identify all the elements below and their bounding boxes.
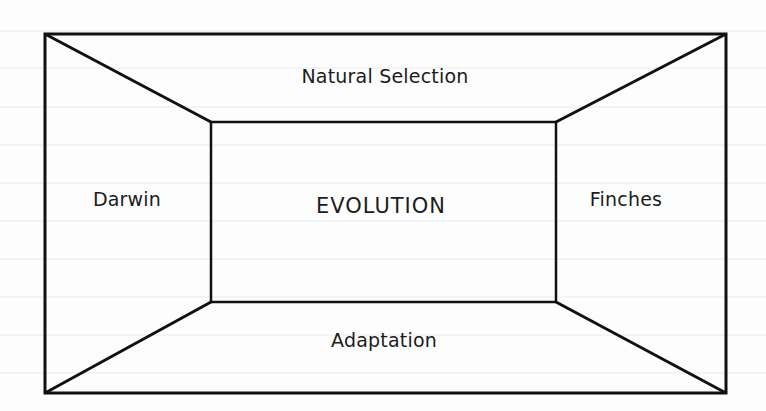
diagram-canvas: Natural Selection Darwin Finches EVOLUTI… <box>0 0 766 411</box>
connector-bottom-right <box>556 302 726 393</box>
center-concept-label: EVOLUTION <box>316 194 446 218</box>
panel-bottom-label: Adaptation <box>331 329 437 351</box>
connector-top-left <box>45 34 211 122</box>
panel-left-label: Darwin <box>93 188 161 210</box>
panel-right-label: Finches <box>590 188 662 210</box>
connector-bottom-left <box>45 302 211 393</box>
connector-top-right <box>556 34 726 122</box>
panel-top-label: Natural Selection <box>301 65 468 87</box>
